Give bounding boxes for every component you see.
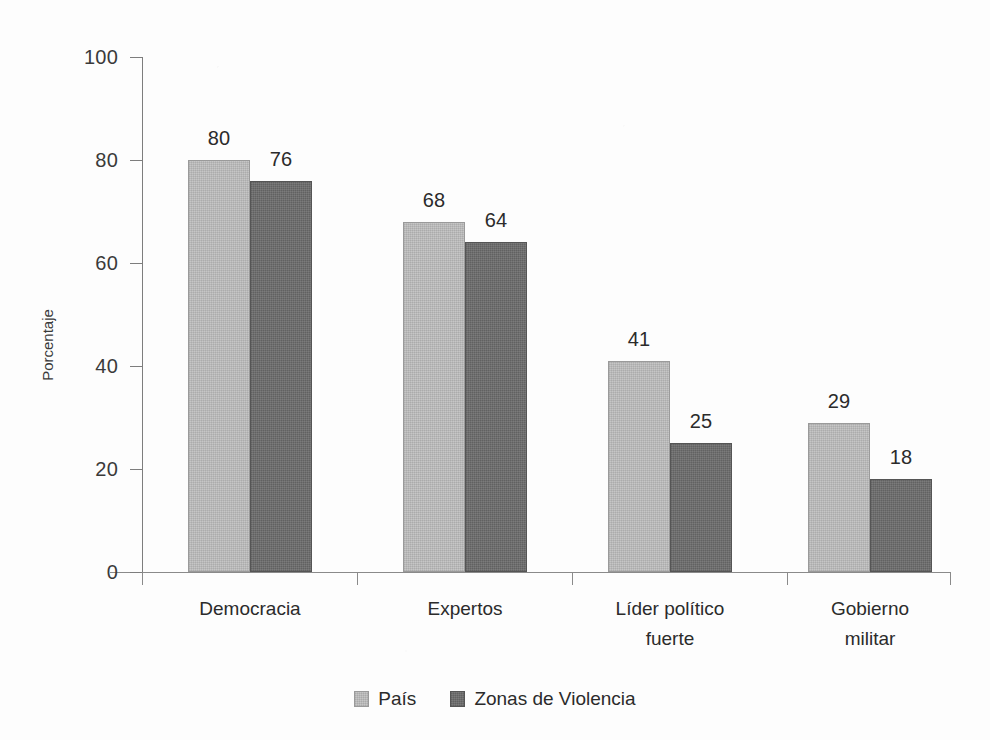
legend-swatch-icon [354,691,369,707]
bar-value-label: 25 [666,410,736,433]
bar-value-label: 41 [604,328,674,351]
y-tick-label: 80 [0,149,142,172]
legend-label: Zonas de Violencia [474,688,635,710]
x-tick-mark-1 [357,572,358,585]
category-label-line: Expertos [365,594,565,624]
category-label-line: fuerte [570,624,770,654]
y-tick-label: 100 [0,46,142,69]
x-tick-mark-4 [950,572,951,585]
x-axis-line [110,572,951,573]
category-label-2: Líder políticofuerte [570,594,770,654]
legend-item-zonas-de-violencia[interactable]: Zonas de Violencia [450,688,635,710]
x-tick-mark-3 [787,572,788,585]
bar-zonas-2 [670,443,732,572]
chart-legend: PaísZonas de Violencia [0,688,990,710]
bar-value-label: 76 [246,148,316,171]
legend-swatch-icon [450,691,465,707]
category-label-line: Gobierno [770,594,970,624]
bar-value-label: 80 [184,127,254,150]
bar-pais-1 [403,222,465,572]
bar-zonas-3 [870,479,932,572]
category-label-0: Democracia [150,594,350,624]
bar-pais-2 [608,361,670,572]
y-axis-line [142,57,143,573]
category-label-1: Expertos [365,594,565,624]
x-tick-mark-0 [142,572,143,585]
bar-zonas-0 [250,181,312,572]
y-tick-label: 60 [0,252,142,275]
bar-value-label: 18 [866,446,936,469]
y-tick-label: 0 [0,561,142,584]
y-tick-label: 40 [0,355,142,378]
category-label-3: Gobiernomilitar [770,594,970,654]
legend-item-pais[interactable]: País [354,688,416,710]
bar-pais-0 [188,160,250,572]
category-label-line: Líder político [570,594,770,624]
category-label-line: Democracia [150,594,350,624]
y-tick-label: 20 [0,458,142,481]
x-tick-mark-2 [572,572,573,585]
category-label-line: militar [770,624,970,654]
bar-value-label: 29 [804,390,874,413]
grouped-bar-chart: Porcentaje 100806040200 8076686441252918… [0,0,990,740]
bar-zonas-1 [465,242,527,572]
bar-value-label: 64 [461,209,531,232]
bar-pais-3 [808,423,870,572]
bar-value-label: 68 [399,189,469,212]
legend-label: País [378,688,416,710]
